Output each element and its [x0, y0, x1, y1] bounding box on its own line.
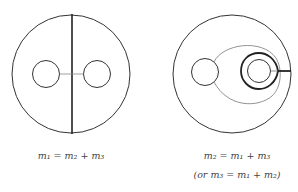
right-boundary-circle-1	[192, 59, 219, 86]
right-outer-disk	[173, 15, 291, 133]
diagram-canvas	[0, 0, 298, 192]
left-disk-diagram	[12, 14, 130, 134]
left-boundary-circle-2	[84, 61, 111, 88]
left-boundary-circle-1	[33, 61, 60, 88]
right-disk-diagram	[173, 15, 291, 133]
right-boundary-circle-2	[248, 60, 271, 83]
left-caption: m₁ = m₂ + m₃	[38, 150, 104, 161]
right-caption: m₂ = m₁ + m₃	[204, 150, 270, 161]
right-caption-alt: (or m₃ = m₁ + m₂)	[193, 169, 280, 180]
